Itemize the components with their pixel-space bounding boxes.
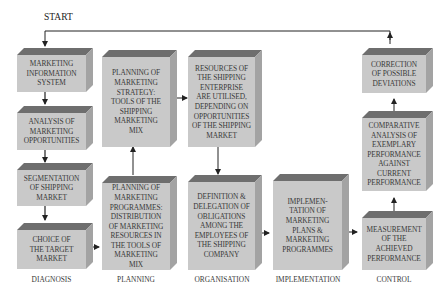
stage-label-planning: PLANNING: [102, 275, 170, 284]
box-definition-delegation-obligations: DEFINITION & DELEGATION OF OBLIGATIONS A…: [188, 182, 255, 270]
stage-label-control: CONTROL: [362, 275, 426, 284]
box-analysis-of-marketing-opportunities: ANALYSIS OF MARKETING OPPORTUNITIES: [17, 113, 86, 150]
box-choice-of-target-market: CHOICE OF THE TARGET MARKET: [17, 230, 86, 269]
box-resources-of-shipping-enterprise: RESOURCES OF THE SHIPPING ENTERPRISE ARE…: [188, 57, 255, 147]
box-comparative-analysis: COMPARATIVE ANALYSIS OF EXEMPLARY PERFOR…: [362, 118, 426, 191]
box-correction-possible-deviations: CORRECTION OF POSSIBLE DEVIATIONS: [362, 55, 426, 93]
box-planning-marketing-strategy: PLANNING OF MARKETING STRATEGY: TOOLS OF…: [102, 57, 170, 147]
box-measurement-achieved-performance: MEASUREMENT OF THE ACHIEVED PERFORMANCE: [362, 218, 426, 270]
stage-label-diagnosis: DIAGNOSIS: [17, 275, 86, 284]
box-planning-marketing-programmes: PLANNING OF MARKETING PROGRAMMES: DISTRI…: [102, 183, 170, 270]
box-implementation-marketing-plans: IMPLEMEN- TATION OF MARKETING PLANS & MA…: [273, 181, 342, 270]
stage-label-organisation: ORGANISATION: [182, 275, 262, 284]
marketing-process-diagram: START MARKETING INFORMATION SYS: [0, 0, 446, 294]
box-marketing-information-system: MARKETING INFORMATION SYSTEM: [17, 55, 86, 92]
stage-label-implementation: IMPLEMENTATION: [266, 275, 350, 284]
box-segmentation-of-shipping-market: SEGMENTATION OF SHIPPING MARKET: [17, 170, 86, 206]
